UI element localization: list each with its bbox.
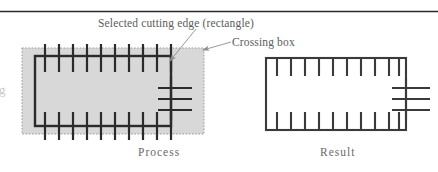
selected-cutting-edge-label: Selected cutting edge (rectangle) xyxy=(98,17,254,29)
crossing-box-shape xyxy=(22,48,204,134)
process-panel xyxy=(22,44,204,140)
process-caption: Process xyxy=(138,146,180,158)
result-caption: Result xyxy=(320,146,355,158)
crossing-box-label: Crossing box xyxy=(232,36,295,48)
left-margin-artifact-glyph: g xyxy=(0,82,6,98)
